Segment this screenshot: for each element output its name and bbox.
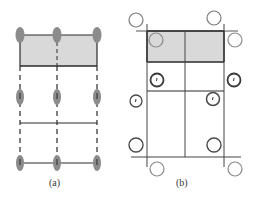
- node-ellipse: [93, 27, 102, 43]
- node-tick: [213, 97, 214, 100]
- circle-node: [129, 138, 143, 152]
- circle-node: [228, 162, 242, 176]
- diagram-canvas: [0, 0, 257, 198]
- panel-b: [129, 11, 242, 176]
- circle-node: [150, 162, 164, 176]
- node-tick: [234, 78, 235, 81]
- circle-node: [129, 13, 143, 27]
- node-tick: [136, 99, 137, 102]
- node-ellipse: [16, 27, 25, 43]
- circle-node: [228, 33, 242, 47]
- node-ellipse: [53, 27, 62, 43]
- panel-b-label: (b): [176, 177, 188, 188]
- panel-a: [16, 27, 102, 171]
- node-tick: [157, 78, 158, 81]
- circle-node: [207, 138, 221, 152]
- panel-a-label: (a): [49, 177, 60, 188]
- circle-node: [207, 11, 221, 25]
